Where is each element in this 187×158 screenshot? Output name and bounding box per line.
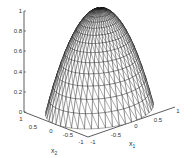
svg-text:0: 0 [134,123,138,129]
svg-text:-1: -1 [78,139,84,145]
svg-text:0.8: 0.8 [14,28,23,34]
svg-text:-0.5: -0.5 [63,132,74,138]
x2-axis-label: x2 [51,147,58,156]
z-tick-labels: 0 0.2 0.4 0.6 0.8 1 [14,8,23,115]
svg-text:0.2: 0.2 [14,89,23,95]
surface-plot: 0 0.2 0.4 0.6 0.8 1 1 0.5 0 -0.5 -1 x2 -… [0,0,187,158]
wireframe-mesh [46,8,154,129]
x1-axis-label: x1 [129,140,136,149]
svg-text:0.6: 0.6 [14,48,23,54]
svg-text:-1: -1 [90,139,96,145]
svg-text:1: 1 [176,108,180,114]
svg-text:0.5: 0.5 [154,117,163,123]
svg-text:0: 0 [49,128,53,134]
svg-text:-0.5: -0.5 [111,132,122,138]
svg-text:0.5: 0.5 [29,124,38,130]
svg-text:1: 1 [19,116,23,122]
svg-text:0.4: 0.4 [14,69,23,75]
svg-text:1: 1 [19,8,23,14]
svg-text:0: 0 [19,109,23,115]
